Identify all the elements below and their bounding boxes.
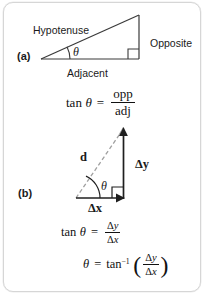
- formula1-fraction: opp adj: [111, 87, 135, 117]
- hypotenuse-label: Hypotenuse: [33, 25, 89, 36]
- formula3-numerator: Δy: [143, 252, 158, 265]
- formula2-den-delta: Δ: [107, 234, 114, 245]
- formula2-num-delta: Δ: [107, 220, 114, 231]
- formula3-equals: =: [94, 258, 101, 271]
- triangle-a-outline: [41, 15, 139, 59]
- formula2-num-var: y: [114, 220, 119, 231]
- panel-b-theta-symbol: θ: [101, 180, 107, 192]
- delta-y-label: Δy: [135, 158, 149, 171]
- triangle-a-hypotenuse-side: [41, 15, 139, 59]
- formula2-equals: =: [91, 226, 98, 239]
- formula1-equals: =: [97, 96, 104, 109]
- formula1-theta: θ: [85, 96, 91, 109]
- vector-d-label: d: [80, 151, 87, 164]
- formula2-fn: tan: [61, 226, 76, 239]
- formula3-den-delta: Δ: [145, 266, 152, 277]
- formula3-num-var: y: [152, 252, 157, 263]
- panel-a-label: (a): [17, 51, 30, 62]
- formula-theta-arctan: θ = tan−1 ( Δy Δx ): [83, 252, 169, 277]
- formula3-theta: θ: [83, 258, 89, 271]
- formula3-den-var: x: [152, 266, 157, 277]
- formula2-den-var: x: [114, 234, 119, 245]
- delta-x-label: Δx: [88, 202, 102, 215]
- formula1-fn: tan: [66, 96, 82, 109]
- formula3-denominator: Δx: [143, 265, 158, 277]
- formula2-denominator: Δx: [105, 233, 120, 245]
- panel-b-label: (b): [18, 188, 32, 199]
- opposite-label: Opposite: [150, 38, 192, 49]
- formula3-fraction: Δy Δx: [143, 252, 158, 277]
- formula1-denominator: adj: [113, 103, 133, 118]
- formula3-open-paren: (: [133, 258, 141, 273]
- panel-a-theta-symbol: θ: [73, 46, 79, 58]
- formula2-theta: θ: [80, 226, 86, 239]
- figure-frame: Hypotenuse Opposite Adjacent (a) θ tan θ…: [3, 2, 201, 292]
- formula3-close-paren: ): [161, 258, 169, 273]
- formula3-num-delta: Δ: [145, 252, 152, 263]
- formula2-fraction: Δy Δx: [105, 220, 120, 245]
- formula-tan-opp-adj: tan θ = opp adj: [66, 87, 137, 117]
- triangle-a-angle-arc: [67, 47, 70, 59]
- formula-tan-delta: tan θ = Δy Δx: [61, 220, 122, 245]
- formula3-fn: tan: [106, 258, 121, 271]
- vector-d-line: [76, 132, 122, 199]
- formula1-numerator: opp: [111, 87, 135, 103]
- formula2-numerator: Δy: [105, 220, 120, 233]
- adjacent-label: Adjacent: [67, 68, 108, 79]
- formula3-exponent: −1: [121, 258, 129, 266]
- vector-delta-y-arrowhead: [119, 127, 128, 136]
- triangle-a-right-angle-marker: [128, 49, 139, 59]
